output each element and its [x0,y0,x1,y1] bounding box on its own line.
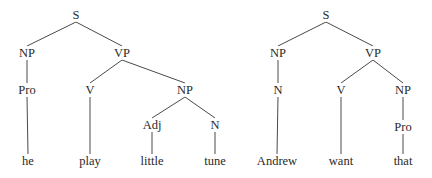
edge-t1-VP-to-t1-NP2 [122,60,185,83]
node-v: V [84,84,95,97]
word-that: that [393,155,414,168]
node-vp: VP [113,47,131,60]
edge-t1-NP2-to-t1-Adj [152,97,185,118]
node-v: V [335,84,346,97]
word-andrew: Andrew [256,155,298,168]
edge-t2-S-to-t2-NP [278,22,326,46]
tree-edges [0,0,432,178]
edge-t1-VP-to-t1-V [90,60,122,83]
node-vp: VP [364,47,382,60]
edge-t1-S-to-t1-NP [27,22,76,46]
node-np: NP [176,84,194,97]
edge-t1-S-to-t1-VP [76,22,122,46]
edge-t1-Pro-to-t1-he [27,97,28,154]
node-pro: Pro [393,121,412,134]
syntax-tree-diagram: SNPVPProVNPAdjNheplaylittletuneSNPVPNVNP… [0,0,432,178]
edge-t2-N-to-t2-Andrew [277,97,278,154]
node-np: NP [18,47,36,60]
node-pro: Pro [17,84,36,97]
word-want: want [328,155,354,168]
edge-t2-VP-to-t2-NP2 [373,60,403,83]
node-np: NP [394,84,412,97]
node-adj: Adj [142,119,163,132]
node-s: S [322,9,331,22]
word-he: he [21,155,35,168]
word-little: little [140,155,165,168]
word-play: play [78,155,102,168]
node-s: S [72,9,81,22]
node-np: NP [269,47,287,60]
edge-t2-VP-to-t2-V [341,60,373,83]
node-n: N [209,119,220,132]
word-tune: tune [203,155,227,168]
edge-t2-S-to-t2-VP [326,22,373,46]
edge-t1-NP2-to-t1-N [185,97,215,118]
node-n: N [272,84,283,97]
